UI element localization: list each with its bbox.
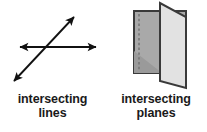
- intersecting-lines-caption: intersecting lines: [0, 93, 105, 120]
- front-plane: [160, 3, 186, 88]
- diagonal-line: [14, 17, 74, 81]
- lines-svg: [0, 0, 105, 92]
- caption-line-2: planes: [105, 107, 207, 121]
- intersecting-planes-caption: intersecting planes: [105, 93, 207, 120]
- figure-page: intersecting lines intersecting planes: [0, 0, 207, 132]
- caption-line-1: intersecting: [0, 93, 105, 107]
- intersecting-lines-figure: [0, 0, 105, 92]
- planes-svg: [105, 0, 207, 92]
- intersecting-planes-figure: [105, 0, 207, 92]
- caption-line-2: lines: [0, 107, 105, 121]
- caption-line-1: intersecting: [105, 93, 207, 107]
